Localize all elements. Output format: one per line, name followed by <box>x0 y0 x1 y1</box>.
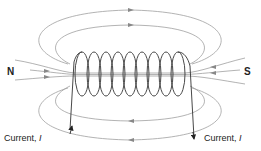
current-label-right: Current, I <box>204 133 242 143</box>
current-symbol: I <box>239 133 242 143</box>
current-label-left-text: Current, <box>4 133 39 143</box>
field-line-through-1 <box>15 58 245 73</box>
field-line-through-2 <box>15 76 245 84</box>
north-pole-label: N <box>7 66 14 77</box>
current-label-right-text: Current, <box>204 133 239 143</box>
solenoid-diagram <box>0 0 261 151</box>
field-line-outer-top <box>39 10 221 64</box>
current-symbol: I <box>39 133 42 143</box>
field-line-inner-top <box>56 25 205 64</box>
south-pole-label: S <box>244 66 251 77</box>
current-label-left: Current, I <box>4 133 42 143</box>
coil <box>70 52 194 138</box>
